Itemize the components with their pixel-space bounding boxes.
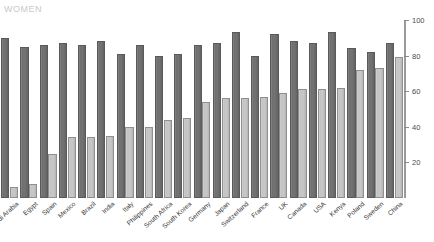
bar-women [125,127,133,198]
y-axis-tick [404,20,409,21]
bar-group [174,20,191,198]
bar-men [270,34,278,198]
x-axis-tick-label: USA [312,200,327,214]
bar-men [309,43,317,198]
y-axis: 20406080100 [404,20,406,198]
y-axis-tick [404,162,409,163]
bar-men [194,45,202,198]
x-axis-tick-label: Canada [286,200,308,221]
bar-group [251,20,268,198]
x-axis-labels: Saudi ArabiaEgyptSpainMexicoBrazilIndiaI… [0,198,404,242]
bar-group [97,20,114,198]
bar-group [232,20,249,198]
x-axis-tick-label: Italy [121,200,135,213]
bar-women [29,184,37,198]
x-axis-tick-label: Saudi Arabia [0,200,19,230]
bar-men [213,43,221,198]
x-axis-tick-label: Brazil [79,200,96,216]
bar-women [318,89,326,198]
y-axis-tick-label: 60 [412,87,420,96]
bar-women [298,89,306,198]
bar-group [270,20,287,198]
bar-women [164,120,172,198]
bar-group [136,20,153,198]
bar-women [337,88,345,198]
bar-group [367,20,384,198]
bar-men [40,45,48,198]
bar-men [328,32,336,198]
bar-men [386,43,394,198]
bar-men [136,45,144,198]
y-axis-tick [404,91,409,92]
bar-women [395,57,403,198]
bar-group [117,20,134,198]
bar-women [106,136,114,198]
bar-group [40,20,57,198]
x-axis-tick-label: Kenya [328,200,347,218]
bar-men [290,41,298,198]
bar-men [20,47,28,198]
bar-women [241,98,249,198]
bar-group [347,20,364,198]
bar-group [59,20,76,198]
bar-women [279,93,287,198]
bar-men [155,56,163,198]
bar-group [290,20,307,198]
bar-group [155,20,172,198]
bar-women [222,98,230,198]
bar-group [78,20,95,198]
bar-group [309,20,326,198]
y-axis-tick-label: 80 [412,51,420,60]
x-axis-tick-label: Sweden [362,200,384,221]
bar-group [386,20,403,198]
bar-women [48,154,56,199]
x-axis-tick-label: India [100,200,115,215]
bar-women [260,97,268,198]
x-axis-tick-label: UK [277,200,288,211]
y-axis-tick [404,56,409,57]
x-axis-tick-label: China [387,200,404,217]
bar-women [145,127,153,198]
bar-men [251,56,259,198]
y-axis-tick-label: 100 [412,16,425,25]
bar-men [347,48,355,198]
y-axis-tick-label: 20 [412,158,420,167]
x-axis-tick-label: Mexico [57,200,77,219]
bar-women [375,68,383,198]
bar-men [78,45,86,198]
bar-men [97,41,105,198]
bar-group [20,20,37,198]
bar-men [367,52,375,198]
bar-men [232,32,240,198]
bar-women [183,118,191,198]
y-axis-tick [404,127,409,128]
bar-group [194,20,211,198]
bar-women [202,102,210,198]
bar-group [328,20,345,198]
bar-group [1,20,18,198]
bar-women [356,70,364,198]
bar-men [174,54,182,198]
plot-area [0,20,404,198]
x-axis-tick-label: Spain [41,200,58,216]
x-axis-tick-label: Egypt [21,200,38,216]
x-axis-tick-label: France [249,200,269,219]
bar-chart: WOMEN 20406080100 Saudi ArabiaEgyptSpain… [0,0,434,242]
bar-group [213,20,230,198]
watermark-label: WOMEN [4,4,42,14]
bar-women [10,187,18,198]
bar-men [59,43,67,198]
bar-men [1,38,9,198]
y-axis-tick-label: 40 [412,122,420,131]
bar-men [117,54,125,198]
bar-women [68,137,76,198]
bar-women [87,137,95,198]
